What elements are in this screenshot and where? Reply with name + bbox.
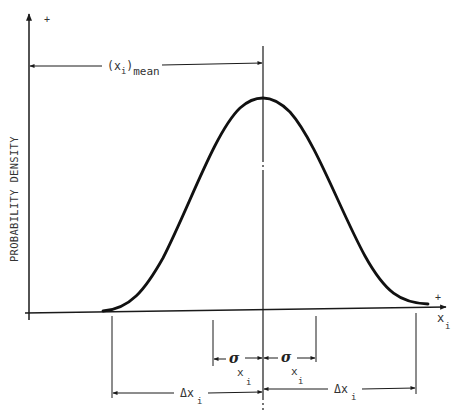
sigma-dimension: σ x i σ x i [213,316,316,387]
x-axis: + x i [25,292,450,331]
delta-left-symbol: Δx [180,386,194,400]
delta-dimension: Δx i Δx i [112,313,416,406]
x-axis-positive-marker: + [435,292,441,303]
x-axis-label: x [437,311,444,325]
sigma-right-sub: x [291,365,298,378]
sigma-right-sub2: i [298,376,303,386]
mean-subscript: mean [133,65,160,78]
mean-paren-close: ) [126,59,133,73]
delta-right-symbol: Δx [334,382,348,396]
y-axis: + PROBABILITY DENSITY [8,14,50,320]
probability-density-diagram: + PROBABILITY DENSITY + x i (xi)mean σ x… [0,0,460,411]
delta-left-sub: i [197,396,202,406]
sigma-left-sub2: i [246,377,251,387]
sigma-left-sub: x [237,366,244,379]
sigma-left-symbol: σ [229,350,240,366]
y-axis-label: PROBABILITY DENSITY [8,136,20,262]
mean-var: x [114,59,121,73]
mean-paren-open: ( [107,59,114,73]
probability-density-curve [103,98,428,311]
x-axis-label-subscript: i [445,321,450,331]
sigma-right-symbol: σ [281,349,292,365]
y-axis-positive-marker: + [44,14,50,25]
mean-dimension: (xi)mean [30,59,262,78]
delta-right-sub: i [351,392,356,402]
svg-text:(xi)mean: (xi)mean [107,59,160,78]
